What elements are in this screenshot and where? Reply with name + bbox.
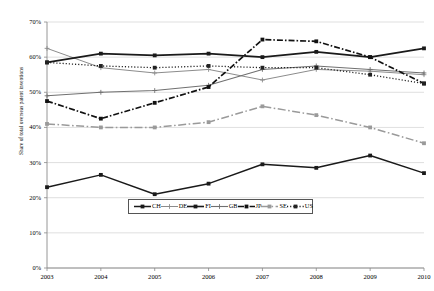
- data-point-marker: [207, 85, 211, 89]
- legend-swatch-ch: [134, 202, 151, 211]
- data-point-marker: [244, 205, 248, 209]
- data-point-marker: [99, 64, 103, 68]
- data-point-marker: [368, 154, 372, 158]
- data-point-marker: [99, 52, 103, 56]
- y-axis-tick-label: 50%: [15, 88, 41, 95]
- x-axis-tick-label: 2005: [135, 273, 175, 280]
- data-point-marker: [153, 192, 157, 196]
- data-point-marker: [141, 205, 145, 209]
- legend-label: CH: [152, 203, 161, 209]
- legend-swatch-se: [261, 202, 278, 211]
- gridlines: [47, 22, 424, 268]
- data-point-marker: [422, 171, 426, 175]
- x-axis-tick-label: 2003: [27, 273, 67, 280]
- legend-item-se[interactable]: SE: [261, 202, 286, 211]
- data-point-marker: [153, 53, 157, 57]
- legend-swatch-us: [287, 202, 304, 211]
- data-point-marker: [45, 185, 49, 189]
- legend-item-de[interactable]: DE: [161, 202, 187, 211]
- data-point-marker: [153, 101, 157, 105]
- data-point-marker: [45, 122, 49, 126]
- data-point-marker: [422, 82, 426, 86]
- legend-item-fi[interactable]: FI: [187, 202, 211, 211]
- y-axis-tick-label: 60%: [15, 53, 41, 60]
- y-axis-tick-label: 20%: [15, 194, 41, 201]
- legend-item-us[interactable]: US: [287, 202, 313, 211]
- series-gb: [45, 64, 427, 99]
- y-axis-tick-label: 70%: [15, 18, 41, 25]
- legend-swatch-jp: [238, 202, 255, 211]
- legend-label: DE: [179, 203, 187, 209]
- y-axis-label: Share of total overseas patent invention…: [18, 46, 24, 176]
- data-point-marker: [293, 205, 297, 209]
- data-point-marker: [207, 120, 211, 124]
- chart-legend: CHDEFIGBJPSEUS: [128, 199, 313, 214]
- data-point-marker: [314, 50, 318, 54]
- data-point-marker: [153, 66, 157, 70]
- data-point-marker: [194, 205, 198, 209]
- axis-lines: [44, 22, 424, 271]
- data-point-marker: [314, 113, 318, 117]
- legend-swatch-de: [161, 202, 178, 211]
- data-point-marker: [153, 126, 157, 130]
- data-point-marker: [99, 126, 103, 130]
- chart-container: Share of total overseas patent invention…: [0, 0, 434, 291]
- x-axis-tick-label: 2004: [81, 273, 121, 280]
- data-point-marker: [261, 66, 265, 70]
- data-point-marker: [314, 39, 318, 43]
- data-point-marker: [99, 117, 103, 121]
- data-point-marker: [261, 38, 265, 42]
- series-line: [47, 106, 424, 143]
- series-line: [47, 62, 424, 83]
- series-se: [45, 104, 426, 145]
- x-axis-tick-label: 2009: [350, 273, 390, 280]
- line-chart-plot: [0, 0, 434, 291]
- data-point-marker: [261, 104, 265, 108]
- legend-label: GB: [229, 203, 238, 209]
- legend-item-gb[interactable]: GB: [211, 202, 238, 211]
- x-axis-tick-label: 2006: [189, 273, 229, 280]
- data-point-marker: [268, 205, 272, 209]
- y-axis-tick-label: 40%: [15, 123, 41, 130]
- legend-swatch-fi: [187, 202, 204, 211]
- data-point-marker: [207, 182, 211, 186]
- legend-item-jp[interactable]: JP: [238, 202, 262, 211]
- data-point-marker: [261, 55, 265, 59]
- legend-label: US: [305, 203, 313, 209]
- series-jp: [45, 38, 426, 121]
- data-point-marker: [368, 55, 372, 59]
- series-layer: [45, 38, 427, 196]
- data-point-marker: [422, 46, 426, 50]
- data-point-marker: [99, 173, 103, 177]
- series-line: [47, 40, 424, 119]
- x-axis-tick-label: 2010: [404, 273, 434, 280]
- series-us: [45, 61, 426, 86]
- data-point-marker: [422, 141, 426, 145]
- data-point-marker: [45, 61, 49, 65]
- data-point-marker: [314, 66, 318, 70]
- legend-item-ch[interactable]: CH: [134, 202, 161, 211]
- data-point-marker: [261, 162, 265, 166]
- y-axis-tick-label: 30%: [15, 159, 41, 166]
- x-axis-tick-label: 2008: [296, 273, 336, 280]
- data-point-marker: [45, 99, 49, 103]
- y-axis-tick-label: 0%: [15, 264, 41, 271]
- legend-swatch-gb: [211, 202, 228, 211]
- data-point-marker: [207, 52, 211, 56]
- series-line: [47, 156, 424, 195]
- data-point-marker: [314, 166, 318, 170]
- series-ch: [45, 154, 426, 196]
- y-axis-tick-label: 10%: [15, 229, 41, 236]
- data-point-marker: [368, 73, 372, 77]
- series-line: [47, 66, 424, 96]
- data-point-marker: [368, 126, 372, 130]
- x-axis-tick-label: 2007: [242, 273, 282, 280]
- legend-label: SE: [279, 203, 286, 209]
- data-point-marker: [207, 64, 211, 68]
- series-line: [47, 48, 424, 62]
